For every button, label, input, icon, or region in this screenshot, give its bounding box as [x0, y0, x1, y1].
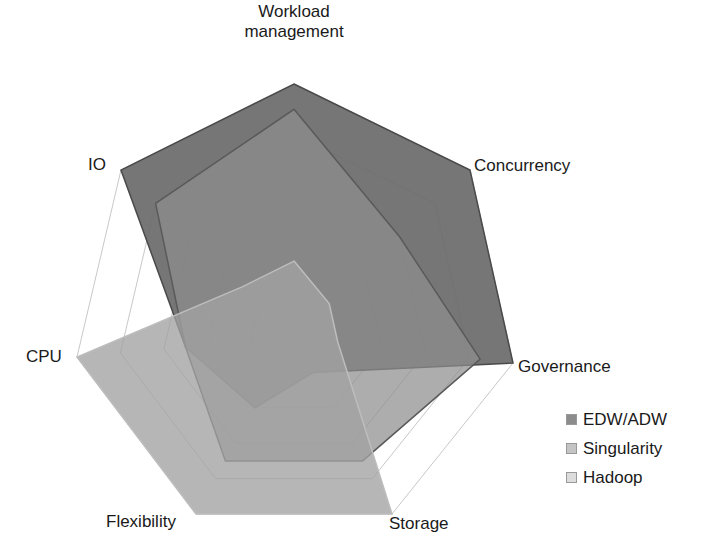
axis-label-workload-line1: Workload — [248, 2, 340, 22]
radar-series — [77, 84, 513, 514]
axis-label-flexibility: Flexibility — [106, 512, 176, 532]
legend-label-edw: EDW/ADW — [583, 410, 667, 430]
axis-label-concurrency: Concurrency — [474, 156, 570, 176]
legend-item-hadoop[interactable]: Hadoop — [566, 463, 667, 492]
legend-label-hadoop: Hadoop — [583, 468, 643, 488]
legend-swatch-singularity — [566, 443, 577, 454]
legend-item-edw[interactable]: EDW/ADW — [566, 405, 667, 434]
axis-label-io: IO — [88, 155, 106, 175]
legend: EDW/ADW Singularity Hadoop — [566, 405, 667, 492]
legend-swatch-hadoop — [566, 472, 577, 483]
legend-swatch-edw — [566, 414, 577, 425]
axis-label-storage: Storage — [389, 514, 449, 534]
legend-label-singularity: Singularity — [583, 439, 662, 459]
radar-chart: Workload management Concurrency Governan… — [0, 0, 721, 560]
legend-item-singularity[interactable]: Singularity — [566, 434, 667, 463]
axis-label-workload: Workload management — [248, 2, 340, 42]
axis-label-cpu: CPU — [26, 347, 62, 367]
axis-label-governance: Governance — [518, 357, 611, 377]
axis-label-workload-line2: management — [236, 22, 352, 42]
